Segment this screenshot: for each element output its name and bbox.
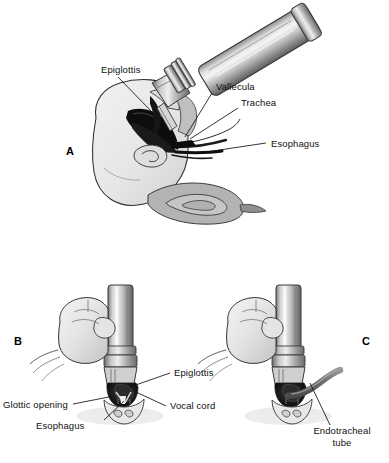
glottic-opening-b — [120, 396, 126, 404]
scope-collar-c-2 — [272, 355, 305, 367]
label-endotracheal-tube-line2: tube — [300, 437, 384, 448]
scope-shaft-b — [108, 285, 133, 348]
label-trachea-a: Trachea — [241, 97, 276, 108]
label-epiglottis-a: Epiglottis — [101, 64, 141, 75]
panel-letter-c: C — [362, 335, 370, 347]
figure-root: A Epiglottis Vallecula Trachea Esophagus… — [0, 0, 389, 463]
leader-esophagus-a — [206, 143, 266, 152]
blade-housing-b — [104, 367, 137, 384]
scope-collar-c-1 — [273, 346, 304, 355]
label-vallecula-a: Vallecula — [216, 81, 255, 92]
blade-housing-c — [272, 367, 305, 384]
panel-a-artwork — [93, 2, 323, 224]
label-vocal-cord-b: Vocal cord — [170, 400, 215, 411]
wrist-fold-b-2 — [33, 357, 60, 373]
thumb-c — [262, 317, 283, 338]
illustration-canvas — [0, 0, 389, 463]
cut-off-caption — [0, 456, 389, 463]
ear-outline — [134, 145, 167, 167]
scope-collar-b-2 — [104, 355, 137, 367]
label-epiglottis-b: Epiglottis — [174, 367, 214, 378]
shoulder-tail — [240, 204, 266, 212]
label-endotracheal-tube-line1: Endotracheal — [300, 425, 384, 436]
scope-collar-b-1 — [105, 346, 136, 355]
leader-trachea-a — [190, 108, 238, 139]
wrist-fold-c-1 — [198, 350, 226, 364]
esophagus-channel — [176, 151, 222, 153]
scope-handle-a — [195, 2, 323, 99]
wrist-fold-b-1 — [30, 350, 58, 364]
panel-letter-b: B — [14, 335, 22, 347]
scope-shaft-c — [276, 285, 301, 348]
label-esophagus-b: Esophagus — [36, 420, 84, 431]
panel-letter-a: A — [66, 145, 74, 157]
thumb-b — [94, 317, 115, 338]
panel-c-artwork — [198, 285, 340, 425]
wrist-fold-b-3 — [42, 364, 64, 381]
label-glottic-opening-b: Glottic opening — [3, 399, 68, 410]
label-esophagus-a: Esophagus — [271, 138, 319, 149]
